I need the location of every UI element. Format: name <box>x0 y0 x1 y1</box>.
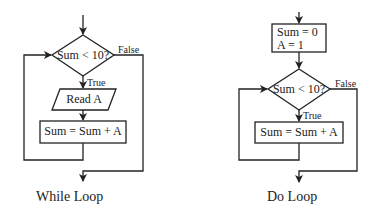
while-sum-text: Sum = Sum + A <box>40 124 126 139</box>
do-loop-caption: Do Loop <box>267 189 317 205</box>
while-read-text: Read A <box>52 92 116 107</box>
while-loop-caption: While Loop <box>36 189 103 205</box>
while-false-path <box>83 55 143 181</box>
do-false-label: False <box>335 78 356 89</box>
flowchart-canvas: Sum < 10? False True Read A Sum = Sum + … <box>0 0 378 219</box>
while-true-label: True <box>87 77 106 88</box>
while-decision-text: Sum < 10? <box>56 48 110 63</box>
do-decision-text: Sum < 10? <box>272 82 326 97</box>
do-sum-text: Sum = Sum + A <box>255 125 343 140</box>
do-init-line-2: A = 1 <box>277 38 304 53</box>
do-true-label: True <box>303 110 322 121</box>
while-false-label: False <box>118 44 139 55</box>
